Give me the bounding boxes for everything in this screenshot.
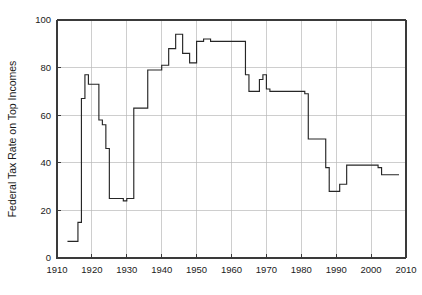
x-tick-label: 1940	[151, 264, 172, 275]
x-tick-label: 1960	[221, 264, 242, 275]
y-tick-label: 40	[40, 157, 51, 168]
x-tick-label: 1990	[326, 264, 347, 275]
y-axis-title: Federal Tax Rate on Top Incomes	[6, 61, 18, 218]
x-tick-label: 1930	[116, 264, 137, 275]
tax-rate-line-chart: 020406080100 191019201930194019501960197…	[0, 0, 422, 295]
x-axis-tick-labels: 1910192019301940195019601970198019902000…	[46, 264, 416, 275]
x-tick-label: 1970	[256, 264, 277, 275]
chart-container: 020406080100 191019201930194019501960197…	[0, 0, 422, 295]
grid-lines	[57, 20, 406, 258]
x-tick-label: 2010	[395, 264, 416, 275]
x-tick-label: 2000	[361, 264, 382, 275]
x-tick-label: 1910	[46, 264, 67, 275]
y-tick-label: 80	[40, 62, 51, 73]
y-tick-label: 100	[35, 14, 51, 25]
y-tick-label: 0	[46, 252, 51, 263]
x-tick-label: 1980	[291, 264, 312, 275]
x-tick-label: 1920	[81, 264, 102, 275]
y-tick-label: 20	[40, 205, 51, 216]
y-tick-label: 60	[40, 110, 51, 121]
x-tick-label: 1950	[186, 264, 207, 275]
y-axis-tick-labels: 020406080100	[35, 14, 51, 263]
